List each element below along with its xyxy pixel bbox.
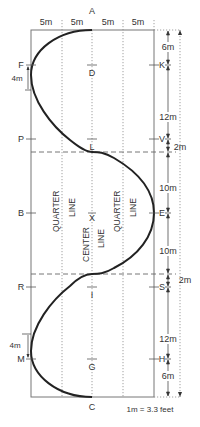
- measure-12m-bottom: 12m: [159, 334, 177, 344]
- quarter-line-right-label-2: LINE: [128, 198, 138, 217]
- col-width-1: 5m: [40, 17, 53, 27]
- letter-g: G: [88, 362, 95, 372]
- col-width-4: 5m: [132, 17, 145, 27]
- center-line-label-1: CENTER: [81, 227, 91, 262]
- letter-s: S: [159, 282, 165, 292]
- letter-k: K: [159, 60, 165, 70]
- letter-e: E: [159, 208, 165, 218]
- measure-10m-top: 10m: [159, 183, 177, 193]
- arrow-down-icon: [27, 354, 30, 358]
- measure-2m-top: 2m: [174, 142, 187, 152]
- col-width-2: 5m: [71, 17, 84, 27]
- letter-a: A: [89, 6, 95, 16]
- letter-f: F: [18, 60, 24, 70]
- center-line-label-2: LINE: [96, 229, 106, 248]
- col-width-3: 5m: [102, 17, 115, 27]
- arrow-up-icon: [178, 30, 182, 35]
- letter-v: V: [159, 134, 165, 144]
- measure-left-bottom: 4m: [9, 341, 20, 350]
- letter-d: D: [89, 68, 96, 78]
- measure-6m-top: 6m: [162, 42, 175, 52]
- arena-diagram: 5m 5m 5m 5m A C F P B R M 4m 4m D L X I …: [0, 0, 200, 427]
- measure-6m-bottom: 6m: [162, 371, 175, 381]
- letter-x: X: [89, 213, 95, 223]
- measure-12m-top: 12m: [159, 112, 177, 122]
- quarter-line-right-label-1: QUARTER: [112, 191, 122, 232]
- letter-i: I: [91, 290, 94, 300]
- letter-h: H: [159, 354, 166, 364]
- quarter-line-left-label-1: QUARTER: [51, 191, 61, 232]
- letter-m: M: [17, 354, 25, 364]
- letter-p: P: [18, 134, 24, 144]
- letter-b: B: [18, 208, 24, 218]
- letter-l: L: [89, 142, 94, 152]
- arrow-up-icon: [27, 66, 30, 70]
- letter-r: R: [18, 282, 25, 292]
- conversion-note: 1m = 3.3 feet: [127, 405, 175, 414]
- measure-2m-bottom: 2m: [179, 275, 192, 285]
- arrow-down-icon: [178, 392, 182, 397]
- letter-c: C: [89, 402, 96, 412]
- measure-10m-bottom: 10m: [159, 246, 177, 256]
- quarter-line-left-label-2: LINE: [67, 198, 77, 217]
- measure-left-top: 4m: [11, 74, 22, 83]
